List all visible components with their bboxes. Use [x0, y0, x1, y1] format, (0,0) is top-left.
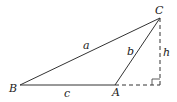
- side-a-label: a: [83, 39, 90, 52]
- right-angle-marker: [152, 79, 160, 85]
- vertex-a-label: A: [111, 86, 120, 99]
- side-a: [20, 18, 160, 85]
- side-b: [115, 18, 160, 85]
- vertex-c-label: C: [155, 4, 164, 17]
- triangle-diagram: C B A a b c h: [0, 0, 177, 102]
- side-b-label: b: [127, 45, 134, 58]
- vertex-b-label: B: [8, 82, 17, 95]
- side-c-label: c: [64, 87, 70, 100]
- altitude-h-label: h: [163, 46, 170, 59]
